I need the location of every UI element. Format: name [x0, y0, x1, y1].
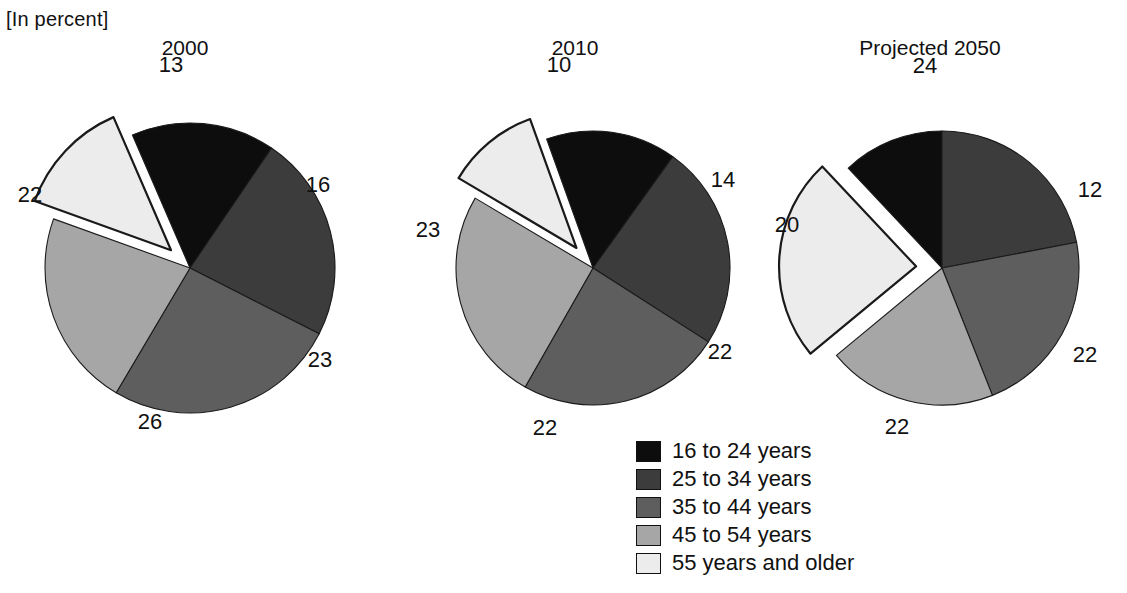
slice-value-label: 14	[711, 167, 735, 193]
pie-chart-1	[15, 93, 365, 443]
pie-chart-2	[426, 101, 760, 435]
legend-item: 45 to 54 years	[636, 521, 854, 549]
legend-label: 16 to 24 years	[672, 440, 811, 462]
unit-label: [In percent]	[6, 8, 108, 31]
legend-item: 16 to 24 years	[636, 437, 854, 465]
slice-value-label: 22	[885, 414, 909, 440]
legend-swatch-icon	[636, 441, 661, 462]
slice-value-label: 12	[1078, 177, 1102, 203]
slice-value-label: 22	[708, 339, 732, 365]
legend: 16 to 24 years25 to 34 years35 to 44 yea…	[636, 437, 854, 577]
slice-value-label: 13	[159, 52, 183, 78]
legend-label: 55 years and older	[672, 552, 854, 574]
legend-item: 25 to 34 years	[636, 465, 854, 493]
slice-value-label: 26	[138, 409, 162, 435]
slice-value-label: 20	[775, 212, 799, 238]
slice-value-label: 22	[18, 182, 42, 208]
slice-value-label: 23	[416, 217, 440, 243]
slice-value-label: 10	[547, 52, 571, 78]
legend-swatch-icon	[636, 525, 661, 546]
legend-label: 45 to 54 years	[672, 524, 811, 546]
legend-item: 35 to 44 years	[636, 493, 854, 521]
legend-swatch-icon	[636, 469, 661, 490]
legend-label: 25 to 34 years	[672, 468, 811, 490]
slice-value-label: 16	[306, 172, 330, 198]
legend-label: 35 to 44 years	[672, 496, 811, 518]
legend-swatch-icon	[636, 497, 661, 518]
legend-swatch-icon	[636, 553, 661, 574]
slice-value-label: 22	[1073, 342, 1097, 368]
slice-value-label: 24	[913, 53, 937, 79]
slice-value-label: 23	[308, 347, 332, 373]
legend-item: 55 years and older	[636, 549, 854, 577]
slice-value-label: 22	[533, 415, 557, 441]
pie-chart-3	[775, 101, 1109, 435]
